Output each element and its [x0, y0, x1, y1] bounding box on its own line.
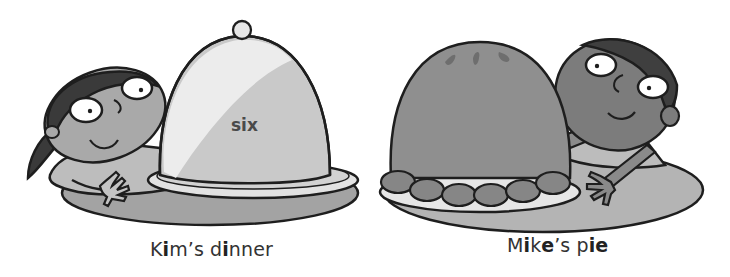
- girl-ear: [45, 126, 59, 138]
- caption-part-bold: ie: [589, 234, 609, 256]
- caption-part: ’s p: [554, 234, 588, 256]
- girl-pupil-left: [88, 109, 92, 113]
- boy-eye-left: [586, 54, 616, 76]
- cloche-label: six: [231, 115, 258, 135]
- girl-pupil-right: [139, 88, 143, 92]
- girl-eye-left: [70, 98, 102, 122]
- boy-pupil-right: [647, 86, 651, 90]
- caption-part: nner: [229, 238, 273, 260]
- boy-ear: [661, 106, 679, 126]
- caption-mikes-pie: Mike’s pie: [507, 234, 608, 256]
- girl-eye-right: [122, 77, 152, 99]
- caption-kims-dinner: Kim’s dinner: [150, 238, 273, 260]
- boy-eye-right: [638, 76, 668, 98]
- pie-dome: [391, 42, 571, 178]
- caption-part-bold: i: [222, 238, 229, 260]
- kims-dinner-illustration: six: [0, 0, 365, 277]
- scene-mikes-pie: Mike’s pie: [365, 0, 730, 277]
- caption-part: k: [530, 234, 541, 256]
- caption-part-bold: e: [541, 234, 554, 256]
- boy-pupil-left: [595, 64, 599, 68]
- caption-part: K: [150, 238, 163, 260]
- scene-kims-dinner: six Kim’s dinner: [0, 0, 365, 277]
- caption-part: M: [507, 234, 524, 256]
- cloche-knob: [233, 21, 251, 39]
- caption-part: m’s d: [169, 238, 222, 260]
